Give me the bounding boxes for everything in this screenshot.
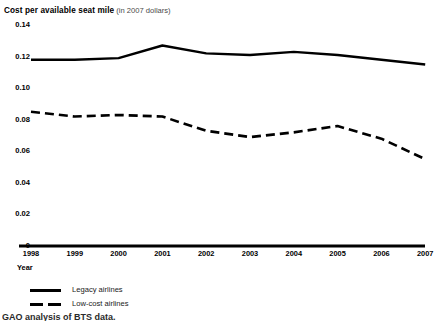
y-tick-label: 0.10 [4, 84, 30, 92]
x-tick-label: 2003 [230, 250, 270, 258]
legend-swatch-dash-2-icon [48, 303, 61, 306]
x-tick-label: 2006 [361, 250, 401, 258]
legend-label-legacy-airlines: Legacy airlines [72, 285, 123, 295]
x-tick-label: 2004 [274, 250, 314, 258]
plot-area [0, 0, 448, 260]
x-tick-label: 2002 [186, 250, 226, 258]
series-line-legacy-airlines [31, 46, 425, 65]
y-tick-label: 0.08 [4, 116, 30, 124]
x-tick-label: 2005 [318, 250, 358, 258]
y-tick-label: 0.02 [4, 210, 30, 218]
x-tick-label: 2000 [99, 250, 139, 258]
series-line-low-cost-airlines [31, 112, 425, 159]
legend-swatch-solid-icon [30, 289, 61, 292]
chart-container: Cost per available seat mile(in 2007 dol… [0, 0, 448, 321]
x-tick-label: 1998 [11, 250, 51, 258]
y-tick-label: 0.06 [4, 147, 30, 155]
x-axis-title: Year [17, 263, 33, 272]
legend-swatch-dash-1-icon [30, 303, 43, 306]
y-tick-label: 0.12 [4, 53, 30, 61]
x-tick-label: 1999 [55, 250, 95, 258]
x-tick-label: 2001 [142, 250, 182, 258]
x-tick-label: 2007 [405, 250, 445, 258]
y-tick-label: 0.04 [4, 179, 30, 187]
plot-svg [0, 0, 448, 260]
y-tick-label: 0.14 [4, 21, 30, 29]
source-note: GAO analysis of BTS data. [2, 312, 116, 321]
legend-label-low-cost-airlines: Low-cost airlines [72, 299, 129, 309]
